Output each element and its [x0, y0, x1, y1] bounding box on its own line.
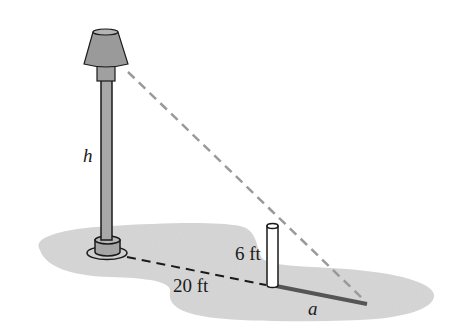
lamp-pole [101, 80, 112, 240]
lamp-neck [97, 66, 115, 81]
diagram-canvas [0, 0, 464, 336]
diagram: h 6 ft 20 ft a [0, 0, 464, 336]
distance-label: 20 ft [173, 276, 208, 295]
shadow-length-label: a [308, 299, 318, 318]
post [267, 224, 278, 288]
lamp-height-label: h [83, 146, 93, 165]
lamp-shade [84, 29, 128, 67]
post-height-label: 6 ft [235, 244, 261, 263]
